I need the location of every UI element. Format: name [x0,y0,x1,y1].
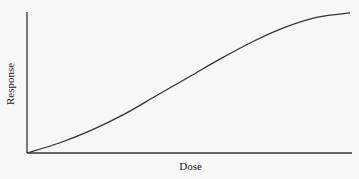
plot-area [0,0,359,179]
y-axis-label: Response [4,63,16,105]
x-axis-label: Dose [0,160,359,172]
dose-response-curve [27,13,350,153]
